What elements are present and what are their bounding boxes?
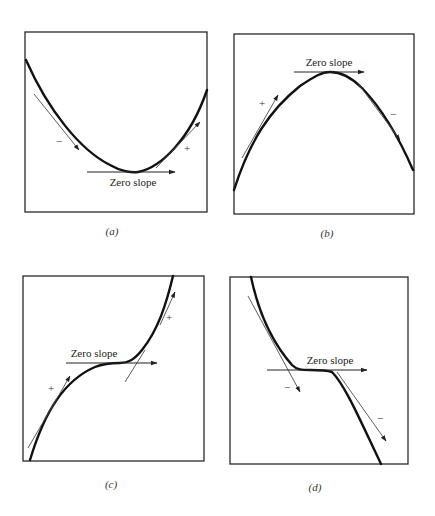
- panel-d-left-sign: −: [284, 381, 290, 393]
- panel-b-zero-slope-label: Zero slope: [306, 56, 353, 68]
- panel-d-right-sign: −: [377, 412, 383, 424]
- panel-b-right-sign: −: [390, 108, 396, 120]
- panel-c-frame: [23, 276, 204, 461]
- panel-d-left-tangent-arrow: [248, 296, 300, 392]
- panel-a-curve: [26, 60, 207, 172]
- panel-c-left-sign: +: [48, 382, 54, 394]
- panel-b-left-sign: +: [259, 97, 265, 109]
- panel-c: + + Zero slope (c): [23, 276, 204, 491]
- panel-a: − + Zero slope (a): [25, 32, 207, 238]
- panel-a-zero-slope-label: Zero slope: [110, 176, 157, 188]
- panel-d: − − Zero slope (d): [230, 277, 408, 494]
- panel-c-inflection-tangent: [125, 350, 145, 382]
- panel-c-curve: [30, 276, 173, 460]
- panel-c-right-sign: +: [166, 311, 172, 323]
- panel-a-left-sign: −: [56, 135, 62, 147]
- panel-a-right-tangent-arrow: [156, 122, 200, 168]
- panel-a-caption: (a): [106, 225, 119, 238]
- panel-a-right-sign: +: [184, 142, 190, 154]
- panel-b: + − Zero slope (b): [234, 34, 414, 240]
- panel-c-zero-slope-label: Zero slope: [71, 347, 118, 359]
- panel-d-right-tangent-arrow: [337, 372, 386, 441]
- panel-b-caption: (b): [321, 227, 334, 240]
- slope-diagram: − + Zero slope (a) + − Zero slope (b) + …: [0, 0, 435, 516]
- panel-c-caption: (c): [105, 478, 118, 491]
- panel-d-caption: (d): [309, 481, 322, 494]
- panel-d-zero-slope-label: Zero slope: [307, 354, 354, 366]
- panel-b-curve: [234, 72, 413, 190]
